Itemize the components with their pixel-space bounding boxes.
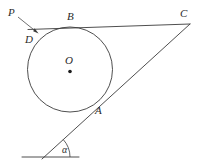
leader-line-p-to-d	[18, 17, 36, 32]
circle-shape	[28, 27, 113, 112]
tangent-line-bc	[28, 24, 190, 30]
label-point-c: C	[180, 7, 188, 19]
circle-center-dot	[68, 70, 72, 74]
label-angle-alpha: α	[62, 144, 68, 155]
geometry-canvas: P D B C O A α	[0, 0, 203, 163]
label-point-b: B	[67, 10, 74, 22]
geometry-figure: P D B C O A α	[0, 0, 203, 163]
label-point-p: P	[7, 6, 15, 18]
label-point-d: D	[24, 33, 33, 45]
tangent-line-ac	[42, 24, 190, 159]
label-point-o: O	[65, 54, 73, 66]
label-point-a: A	[94, 104, 102, 116]
